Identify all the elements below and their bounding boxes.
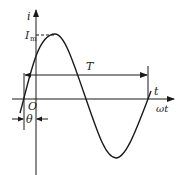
x-axis-wt-label: ωt — [156, 103, 169, 114]
theta-arrow-left-head — [18, 117, 24, 122]
origin-label: O — [28, 100, 37, 113]
x-axis-t-label: t — [154, 85, 159, 98]
phase-label: θ — [26, 113, 33, 126]
theta-arrow-right-head — [36, 117, 42, 122]
period-arrow-left-head — [24, 73, 31, 78]
waveform-diagram: i I m T t ωt O θ — [0, 0, 181, 175]
sine-curve — [20, 34, 151, 158]
period-label: T — [86, 60, 95, 73]
peak-label-sub: m — [30, 35, 37, 43]
y-axis-label: i — [27, 10, 31, 23]
